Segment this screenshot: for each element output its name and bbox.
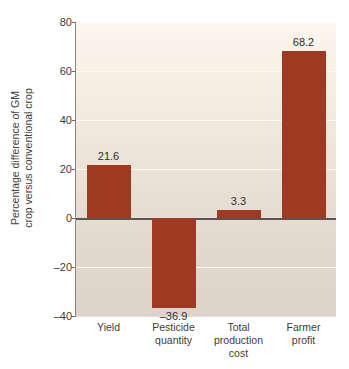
zero-baseline — [76, 218, 336, 220]
y-tick-label-0: 0 — [38, 212, 72, 224]
bar — [152, 218, 196, 308]
x-axis-category-line: Farmer — [271, 321, 336, 334]
y-tick-label-20: 20 — [38, 163, 72, 175]
x-axis-category-line: Yield — [76, 321, 141, 334]
x-axis-category-label: Farmerprofit — [271, 321, 336, 367]
x-axis-category-label: Pesticidequantity — [141, 321, 206, 367]
x-axis-category-line: cost — [206, 347, 271, 360]
x-axis-category-label: Yield — [76, 321, 141, 367]
gridline--20 — [76, 267, 336, 268]
bar — [217, 210, 261, 218]
bar-value-label: 68.2 — [274, 36, 334, 48]
bar-chart: Percentage difference of GM crop versus … — [0, 0, 349, 369]
bar-value-label: 3.3 — [209, 195, 269, 207]
x-axis-category-line: quantity — [141, 334, 206, 347]
gridline--40 — [76, 316, 336, 317]
x-axis-category-line: profit — [271, 334, 336, 347]
y-tick-label-40: 40 — [38, 114, 72, 126]
gridline-80 — [76, 22, 336, 23]
y-axis-ticks: 806040200–20–40 — [34, 22, 72, 316]
x-axis-category-line: Total — [206, 321, 271, 334]
bar-value-label: 21.6 — [79, 150, 139, 162]
y-tick-label-80: 80 — [38, 16, 72, 28]
plot-area: 21.6–36.93.368.2 — [76, 22, 336, 316]
x-axis-category-label: Totalproductioncost — [206, 321, 271, 367]
y-tick-label--40: –40 — [38, 310, 72, 322]
y-axis-title-line-1: Percentage difference of GM — [9, 88, 22, 228]
x-axis-category-line: Pesticide — [141, 321, 206, 334]
x-axis-labels: YieldPesticidequantityTotalproductioncos… — [76, 321, 336, 367]
y-tick-label-60: 60 — [38, 65, 72, 77]
y-tick-label--20: –20 — [38, 261, 72, 273]
x-axis-category-line: production — [206, 334, 271, 347]
bar — [282, 51, 326, 218]
bar — [87, 165, 131, 218]
